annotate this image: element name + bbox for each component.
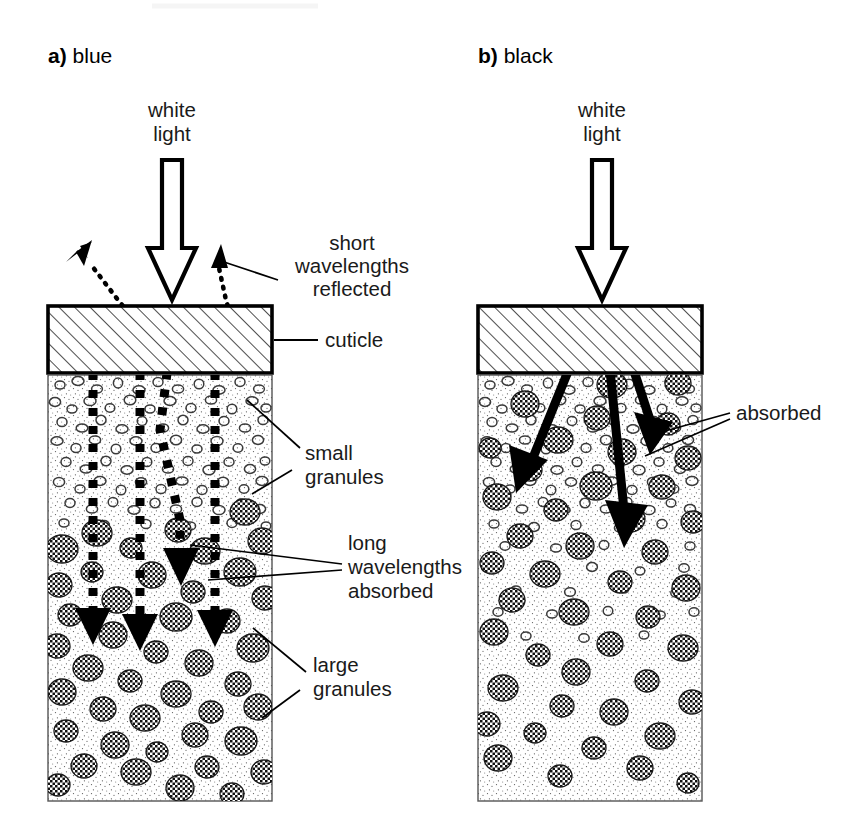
panel-a-reflected-label-line2: wavelengths [294,254,409,277]
panel-a-reflected-arrowhead-left-solid [76,240,92,266]
panel-a-large-granules-label-line2: granules [313,677,392,700]
panel-b-cuticle-box [478,306,702,373]
panel-a-reflected-label-line1: short [329,231,375,254]
panel-a: white light short wavelengths reflected … [44,98,462,805]
panel-b-source-label-line2: light [583,122,621,145]
panel-a-small-granules-label-line2: granules [305,465,384,488]
panel-a-reflected-label-line3: reflected [313,277,392,300]
panel-b-source-label-line1: white [577,98,626,121]
panel-a-reflected-leader [224,262,278,280]
panel-a-absorbed-label-line3: absorbed [348,579,433,602]
panel-a-cuticle-label: cuticle [325,328,383,351]
panel-b-absorbed-label: absorbed [736,401,821,424]
panel-b-white-light-arrow [578,160,626,300]
panel-a-large-granules-label-line1: large [313,653,359,676]
panel-a-small-granules-label-line1: small [305,441,353,464]
panel-a-absorbed-label-line2: wavelengths [347,555,462,578]
panel-a-cuticle-box [48,306,272,373]
panel-a-reflected-arrowhead-right [211,244,228,268]
panel-a-white-light-arrow [148,160,196,300]
figure-root: a) blue b) black [0,0,841,839]
panel-a-source-label-line2: light [153,122,191,145]
diagram-canvas: white light short wavelengths reflected … [0,0,841,839]
panel-b: white light [474,98,821,801]
panel-a-source-label-line1: white [147,98,196,121]
panel-a-absorbed-label-line1: long [348,531,387,554]
